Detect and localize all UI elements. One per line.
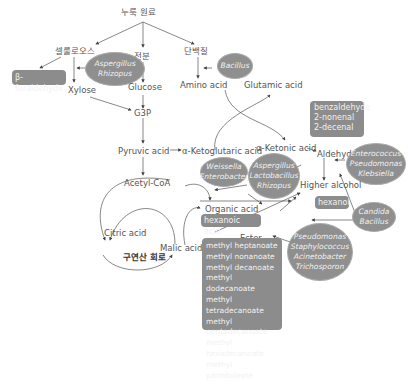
node-protein: 단백질: [184, 47, 208, 56]
microbe-name: Bacillus: [221, 61, 250, 71]
node-xylose: Xylose: [68, 86, 96, 95]
node-ketonic-acid: α-Ketonic acid: [256, 144, 316, 153]
compound: methyl hexadecanoate: [206, 338, 278, 360]
compound: 2-nonenal: [314, 113, 360, 123]
node-malic-acid: Malic acid: [160, 244, 202, 253]
compound: 2-decenal: [314, 123, 360, 133]
microbe-name: Lactobacillus: [250, 171, 299, 181]
node-raw-material: 누룩 원료: [121, 8, 156, 17]
compound: methyl nonanoate: [206, 252, 278, 263]
node-glutamic-acid: Glutamic acid: [244, 81, 303, 90]
microbe-aspergillus-lactobacillus: Aspergillus Lactobacillus Rhizopus: [248, 153, 300, 199]
furaldehyde-box: β-furaldehyde: [12, 70, 66, 85]
compound: methyl tetradecanoate: [206, 295, 278, 317]
node-citric-acid: Citric acid: [104, 229, 147, 238]
compound: benzaldehyde: [314, 103, 360, 113]
microbe-enterococcus: Enterococcus Pseudomonas Klebsiella: [346, 143, 406, 185]
microbe-pseudomonas: Pseudomonas Staphylococcus Acinetobacter…: [287, 223, 353, 281]
compound: methyl pentadecanoate: [206, 317, 278, 339]
microbe-name: Trichosporon: [296, 262, 344, 272]
microbe-candida: Candida Bacillus: [352, 202, 396, 232]
compound: methyl decanoate: [206, 263, 278, 274]
microbe-name: Pseudomonas: [350, 159, 402, 169]
microbe-name: Weissella: [206, 162, 241, 172]
microbe-bacillus: Bacillus: [217, 53, 253, 79]
microbe-name: Rhizopus: [98, 69, 132, 79]
node-acetyl-coa: Acetyl-CoA: [124, 179, 170, 188]
microbe-name: Pseudomonas: [294, 232, 346, 242]
node-amino-acid: Amino acid: [180, 81, 227, 90]
microbe-name: Klebsiella: [358, 169, 394, 179]
node-higher-alcohol: Higher alcohol: [300, 181, 361, 190]
node-ketoglutaric-acid: α-Ketoglutaric acid: [182, 147, 262, 156]
node-pyruvic-acid: Pyruvic acid: [118, 147, 169, 156]
node-g3p: G3P: [134, 109, 151, 118]
microbe-aspergillus-rhizopus: Aspergillus Rhizopus: [85, 52, 145, 86]
microbe-name: Aspergillus: [253, 161, 294, 171]
microbe-name: Aspergillus: [94, 59, 135, 69]
microbe-name: Staphylococcus: [291, 242, 350, 252]
hexanol-box: hexanol: [315, 196, 349, 209]
node-cellulose: 셀룰로오스: [55, 47, 95, 56]
microbe-name: Enterobacter: [200, 172, 249, 182]
compound: methyl palmitoleate: [206, 360, 278, 381]
hexanoic-acid-box: hexanoic acid: [201, 214, 261, 227]
ester-compounds-box: methyl heptanoate methyl nonanoate methy…: [202, 238, 282, 330]
compound: methyl heptanoate: [206, 241, 278, 252]
microbe-name: Rhizopus: [257, 181, 291, 191]
microbe-name: Enterococcus: [351, 149, 401, 159]
microbe-name: Candida: [359, 207, 390, 217]
aldehyde-compounds-box: benzaldehyde 2-nonenal 2-decenal: [310, 101, 364, 137]
compound: methyl dodecanoate: [206, 273, 278, 295]
microbe-name: Bacillus: [360, 217, 389, 227]
microbe-weissella: Weissella Enterobacter: [200, 157, 248, 187]
node-tca-cycle: 구연산 회로: [123, 253, 166, 262]
node-glucose: Glucose: [128, 83, 162, 92]
node-organic-acid: Organic acid: [205, 205, 258, 214]
microbe-name: Acinetobacter: [294, 252, 346, 262]
